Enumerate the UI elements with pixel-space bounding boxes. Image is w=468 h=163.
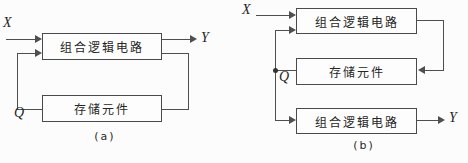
sequential-circuit-figure: X Q 组合逻辑电路 Y 存储元件 (a) X 组合逻辑电 [0, 0, 468, 163]
storage-element-box-b: 存储元件 [296, 58, 417, 85]
state-q-label-b: Q [279, 70, 289, 84]
wire-feedback-left-vertical-a [17, 53, 18, 109]
storage-element-box-a: 存储元件 [42, 95, 162, 122]
wire-feedback-right-vertical-a [188, 53, 189, 110]
combinational-logic-top-box-b: 组合逻辑电路 [296, 8, 417, 34]
input-x-label-b: X [242, 3, 251, 17]
wire-feedback-input-top-b [275, 30, 289, 31]
wire-feedback-input-a [17, 53, 35, 54]
output-y-label-b: Y [449, 111, 457, 125]
arrowhead-feedback-input-a [35, 49, 42, 57]
wire-feedback-top-right-a [162, 53, 189, 54]
arrowhead-y-output-a [190, 35, 197, 43]
arrowhead-x-input-b [289, 11, 296, 19]
wire-feedback-input-bottom-b [275, 120, 289, 121]
output-y-label-a: Y [201, 31, 209, 45]
combinational-logic-box-a: 组合逻辑电路 [42, 33, 162, 60]
input-x-label-a: X [3, 16, 12, 30]
arrowhead-feedback-input-bottom-b [289, 116, 296, 124]
wire-x-input-b [256, 15, 289, 16]
arrowhead-x-input-a [35, 35, 42, 43]
wire-x-input-a [6, 39, 35, 40]
combinational-logic-bottom-box-b: 组合逻辑电路 [296, 108, 417, 134]
caption-b: (b) [339, 139, 389, 152]
wire-feedback-bottom-right-a [162, 109, 189, 110]
wire-storage-input-b [425, 70, 444, 71]
wire-right-vertical-b [443, 20, 444, 70]
wire-feedback-left-vertical-b [275, 30, 276, 120]
arrowhead-feedback-input-top-b [289, 26, 296, 34]
arrowhead-storage-input-b [418, 66, 425, 74]
arrowhead-y-output-b [438, 116, 445, 124]
wire-top-output-b [417, 20, 444, 21]
caption-a: (a) [80, 130, 130, 143]
wire-y-output-b [417, 120, 438, 121]
wire-y-output-a [162, 39, 190, 40]
junction-dot-b [273, 68, 278, 73]
state-q-label-a: Q [14, 106, 24, 120]
